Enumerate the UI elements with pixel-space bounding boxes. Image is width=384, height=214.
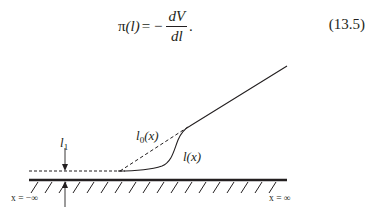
wetting-film-diagram xyxy=(0,0,384,214)
film-profile-curve xyxy=(118,66,287,171)
label-l0-x: l0(x) xyxy=(136,128,159,145)
label-l1: l1 xyxy=(60,135,68,152)
thickness-arrow-bottom-head xyxy=(62,181,68,188)
thickness-arrow-top-head xyxy=(62,164,68,171)
label-x-infinity: x = ∞ xyxy=(269,193,291,203)
label-l-x: l(x) xyxy=(183,149,201,165)
label-x-minus-infinity: x = −∞ xyxy=(11,193,38,203)
